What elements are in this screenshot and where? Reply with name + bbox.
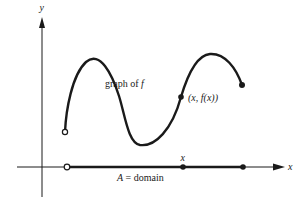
y-axis: y — [39, 2, 46, 197]
point-x-fx-label: (x, f(x)) — [188, 92, 219, 104]
x-axis-arrow-icon — [273, 164, 285, 171]
curve-start-open-point — [62, 129, 67, 134]
y-axis-label: y — [39, 2, 45, 13]
function-domain-diagram: y x graph of f (x, f(x)) x A = domain — [0, 0, 306, 197]
domain-end-point — [240, 164, 246, 170]
domain-start-open-point — [64, 164, 70, 170]
graph-fn-name: f — [141, 78, 145, 89]
domain-label: A = domain — [116, 172, 164, 183]
x-marker-label: x — [180, 152, 186, 163]
domain-x-point — [180, 164, 186, 170]
domain-eq: = domain — [123, 172, 164, 183]
x-axis-label: x — [287, 161, 293, 172]
y-axis-arrow-icon — [39, 17, 45, 28]
graph-of-f-label: graph of f — [105, 78, 145, 89]
curve-end-filled-point — [239, 82, 245, 88]
curve-point-x-fx — [178, 94, 184, 100]
graph-of-prefix: graph of — [105, 78, 141, 89]
